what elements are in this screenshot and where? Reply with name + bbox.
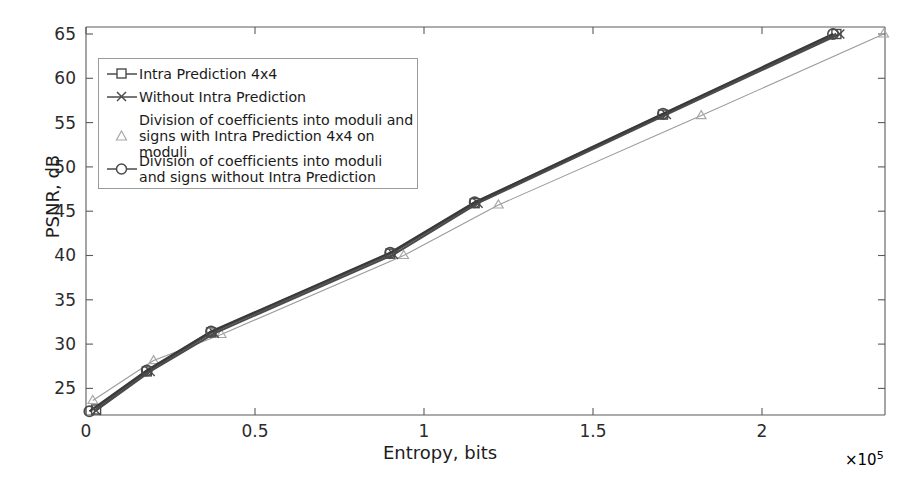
- legend-label: Without Intra Prediction: [139, 89, 306, 105]
- legend-marker-circle-icon: [105, 160, 139, 178]
- x-axis-title: Entropy, bits: [330, 442, 550, 463]
- y-axis-title: PSNR, dB: [42, 137, 63, 257]
- legend-marker-cross-icon: [105, 88, 139, 106]
- x-tick-label: 0.5: [241, 421, 268, 441]
- x-tick-label: 2: [757, 421, 768, 441]
- legend-item-intra-prediction-4x4[interactable]: Intra Prediction 4x4: [105, 65, 277, 83]
- x-axis-title-text: Entropy, bits: [383, 442, 497, 463]
- x-axis-exponent-power: 5: [877, 449, 884, 462]
- y-tick-label: 60: [54, 68, 76, 88]
- y-tick-label: 35: [54, 290, 76, 310]
- x-axis-exponent: ×105: [845, 449, 884, 469]
- chart-figure: 25 30 35 40 45 50 55 60 65 0 0.5 1 1.5 2: [0, 0, 917, 482]
- x-tick-label: 1: [419, 421, 430, 441]
- legend: Intra Prediction 4x4 Without Intra Predi…: [98, 58, 418, 189]
- y-tick-label: 65: [54, 24, 76, 44]
- legend-label: Intra Prediction 4x4: [139, 66, 277, 82]
- legend-item-division-without-intra[interactable]: Division of coefficients into moduli and…: [105, 153, 382, 185]
- y-tick-label: 25: [54, 378, 76, 398]
- legend-marker-triangle-icon: [105, 127, 139, 145]
- legend-marker-square-icon: [105, 65, 139, 83]
- x-tick-label: 1.5: [579, 421, 606, 441]
- y-tick-label: 55: [54, 113, 76, 133]
- y-tick-label: 30: [54, 334, 76, 354]
- x-tick-labels: 0 0.5 1 1.5 2: [81, 421, 768, 441]
- y-axis-title-text: PSNR, dB: [42, 155, 63, 238]
- x-axis-exponent-base: ×10: [845, 451, 877, 469]
- legend-label: Division of coefficients into moduli and…: [139, 153, 382, 185]
- x-tick-label: 0: [81, 421, 92, 441]
- legend-item-without-intra-prediction[interactable]: Without Intra Prediction: [105, 88, 306, 106]
